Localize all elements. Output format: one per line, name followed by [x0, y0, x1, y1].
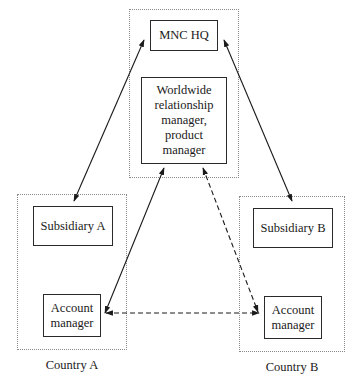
edge-wrm-account-b	[203, 168, 258, 312]
edge-wrm-account-a	[105, 168, 164, 313]
country-b-label: Country B	[239, 360, 345, 375]
edge-hq-subsidiary-a	[74, 40, 144, 201]
worldwide-manager-node: Worldwide relationship manager, product …	[141, 77, 227, 164]
account-manager-b-node: Account manager	[264, 296, 322, 339]
subsidiary-b-label: Subsidiary B	[261, 221, 326, 236]
subsidiary-a-label: Subsidiary A	[41, 219, 106, 234]
worldwide-manager-label: Worldwide relationship manager, product …	[146, 83, 222, 158]
account-manager-b-label: Account manager	[269, 303, 317, 333]
subsidiary-b-node: Subsidiary B	[253, 208, 333, 248]
country-a-label: Country A	[17, 358, 127, 373]
mnc-hq-node: MNC HQ	[150, 20, 218, 51]
subsidiary-a-node: Subsidiary A	[33, 206, 113, 246]
account-manager-a-label: Account manager	[48, 301, 96, 331]
edge-hq-subsidiary-b	[224, 40, 292, 201]
account-manager-a-node: Account manager	[43, 294, 101, 337]
mnc-hq-label: MNC HQ	[159, 28, 209, 43]
